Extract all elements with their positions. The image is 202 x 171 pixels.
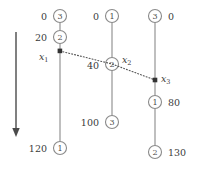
- node-value: 2: [152, 148, 157, 157]
- cut-point-label-x1: x1: [39, 51, 49, 64]
- node-value: 3: [57, 12, 62, 21]
- time-label-p1-n2: 20: [35, 32, 47, 43]
- svg-text:x1: x1: [39, 51, 49, 64]
- diagram-svg: 3 0 2 20 1 120 1 0 2: [0, 0, 202, 171]
- cut-label-sub: 3: [166, 78, 170, 86]
- node-value: 3: [152, 12, 157, 21]
- node-value: 1: [57, 144, 62, 153]
- node-p3-n2[interactable]: 1: [149, 96, 162, 109]
- cut-point-x1-marker[interactable]: [58, 49, 63, 54]
- cut-point-label-x3: x3: [161, 73, 171, 86]
- node-value: 2: [57, 33, 62, 42]
- time-label-p1-n1: 0: [41, 11, 47, 22]
- cut-point-x3-marker[interactable]: [153, 78, 158, 83]
- node-value: 1: [109, 12, 114, 21]
- node-p1-n2[interactable]: 2: [54, 31, 67, 44]
- node-p2-n3[interactable]: 3: [106, 116, 119, 129]
- timeline-process-2: 1 0 2 40 3 100: [81, 10, 119, 129]
- time-label-p3-n3: 130: [168, 147, 186, 158]
- timeline-process-1: 3 0 2 20 1 120: [29, 10, 67, 155]
- time-label-p2-n1: 0: [93, 11, 99, 22]
- cut-point-label-x2: x2: [122, 54, 132, 67]
- svg-text:x2: x2: [122, 54, 132, 67]
- node-p2-n1[interactable]: 1: [106, 10, 119, 23]
- node-p3-n3[interactable]: 2: [149, 146, 162, 159]
- downward-time-arrow: [12, 32, 19, 137]
- time-label-p2-n2: 40: [87, 60, 99, 71]
- node-value: 1: [152, 98, 157, 107]
- node-value: 3: [109, 118, 114, 127]
- node-p1-n3[interactable]: 1: [54, 142, 67, 155]
- time-label-p3-n2: 80: [168, 97, 180, 108]
- cut-label-sub: 1: [44, 56, 48, 64]
- cut-label-sub: 2: [127, 59, 131, 67]
- node-p1-n1[interactable]: 3: [54, 10, 67, 23]
- time-label-p1-n3: 120: [29, 143, 47, 154]
- message-sequence-diagram: 3 0 2 20 1 120 1 0 2: [0, 0, 202, 171]
- time-label-p2-n3: 100: [81, 117, 99, 128]
- svg-text:x3: x3: [161, 73, 171, 86]
- node-p3-n1[interactable]: 3: [149, 10, 162, 23]
- time-label-p3-n1: 0: [168, 11, 174, 22]
